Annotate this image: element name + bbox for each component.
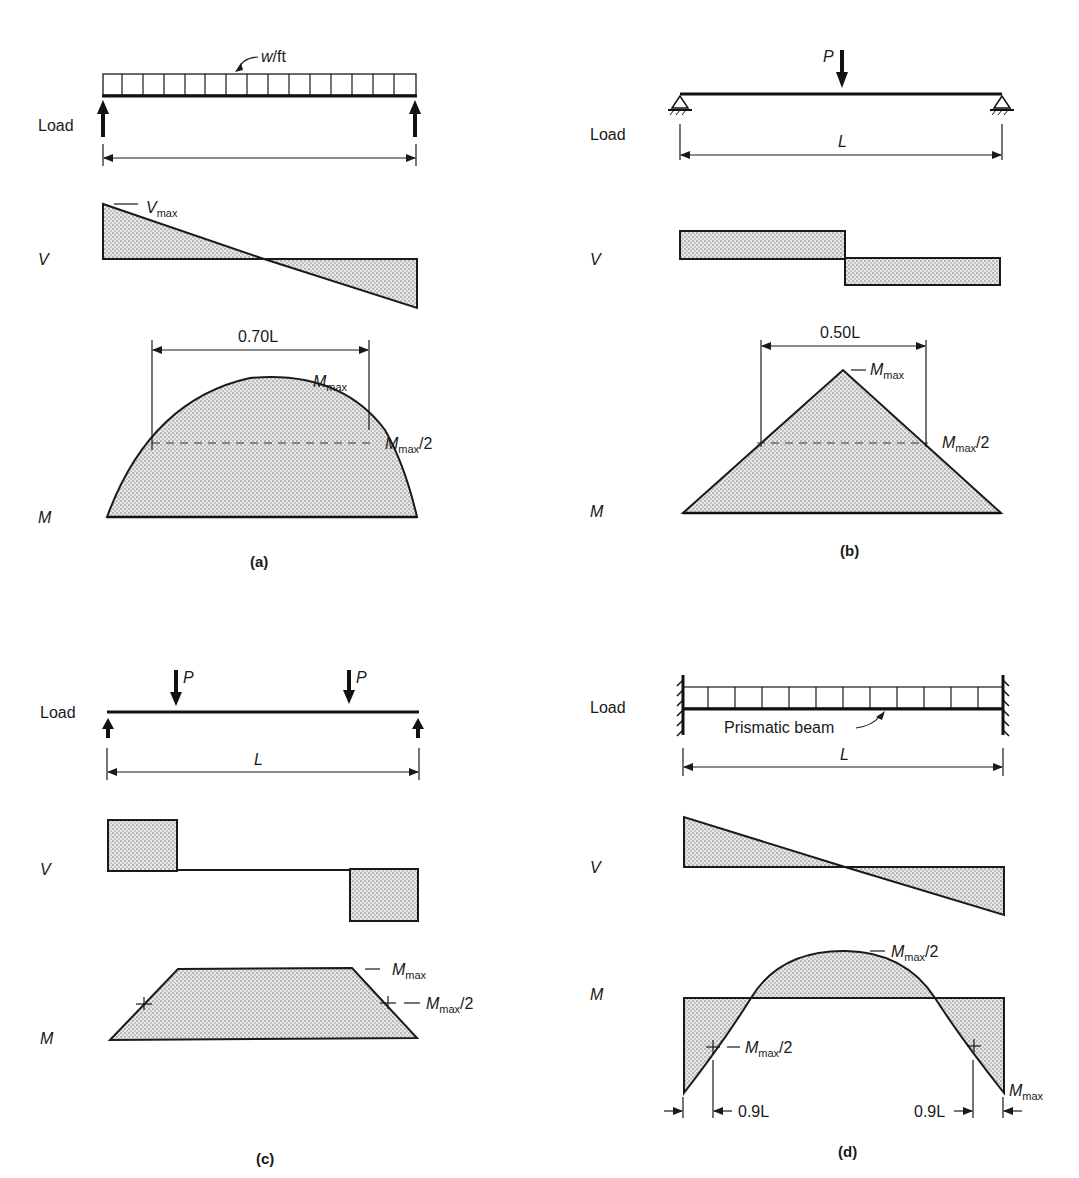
m-max-label: Mmax — [392, 961, 427, 981]
row-label-moment: M — [40, 1030, 54, 1047]
m-span-label: 0.50L — [820, 324, 860, 341]
panel-d-moment-diagram: M Mmax/2 Mmax/2 Mmax 0.9L — [590, 943, 1044, 1120]
panel-caption: (b) — [840, 542, 859, 559]
panel-c-shear-diagram: V — [40, 820, 418, 921]
span-label: L — [838, 133, 847, 150]
panel-a-load-diagram: Load w/ft — [38, 48, 421, 166]
left-dim-label: 0.9L — [738, 1103, 769, 1120]
point-load-label: P — [183, 669, 194, 686]
pin-support-icon — [668, 96, 692, 115]
right-dim-label: 0.9L — [914, 1103, 945, 1120]
span-label: L — [254, 751, 263, 768]
m-max-label: Mmax — [870, 361, 905, 381]
fixed-support-icon — [677, 675, 683, 736]
panel-caption: (c) — [256, 1150, 274, 1167]
panel-d-load-diagram: Load Prismat — [590, 675, 1009, 776]
m-max-end-label: Mmax — [1009, 1082, 1044, 1102]
row-label-load: Load — [40, 704, 76, 721]
row-label-moment: M — [38, 509, 52, 526]
row-label-shear: V — [38, 251, 50, 268]
reaction-arrow-icon — [97, 100, 109, 137]
point-load-arrow-icon — [170, 670, 182, 706]
panel-b-load-diagram: Load P L — [590, 48, 1014, 160]
beam-diagrams-figure: Load w/ft — [0, 0, 1079, 1178]
panel-a-moment-diagram: M 0.70L Mmax Mmax/2 — [38, 328, 433, 526]
pin-support-icon — [990, 96, 1014, 115]
panel-d: Load Prismat — [590, 675, 1044, 1160]
row-label-shear: V — [590, 859, 602, 876]
row-label-shear: V — [590, 251, 602, 268]
row-label-shear: V — [40, 861, 52, 878]
reaction-arrow-icon — [412, 718, 424, 738]
panel-a: Load w/ft — [38, 48, 433, 570]
panel-d-shear-diagram: V — [590, 817, 1004, 915]
panel-c-moment-diagram: M Mmax Mmax/2 — [40, 961, 474, 1047]
point-load-label: P — [823, 48, 834, 65]
panel-b-shear-diagram: V — [590, 231, 1000, 285]
reaction-arrow-icon — [102, 718, 114, 738]
panel-caption: (d) — [838, 1143, 857, 1160]
panel-b: Load P L V — [590, 48, 1014, 559]
row-label-load: Load — [38, 117, 74, 134]
panel-a-shear-diagram: V Vmax — [38, 199, 417, 308]
m-max-half-peak-label: Mmax/2 — [891, 943, 939, 963]
m-half-label: Mmax/2 — [426, 995, 474, 1015]
row-label-load: Load — [590, 126, 626, 143]
point-load-label: P — [356, 669, 367, 686]
m-span-label: 0.70L — [238, 328, 278, 345]
row-label-load: Load — [590, 699, 626, 716]
panel-c-load-diagram: Load P P L — [40, 669, 424, 780]
panel-caption: (a) — [250, 553, 268, 570]
leader-arrow-icon — [856, 716, 880, 728]
reaction-arrow-icon — [409, 100, 421, 137]
panel-b-moment-diagram: M 0.50L Mmax Mmax/2 — [590, 324, 1001, 520]
point-load-arrow-icon — [836, 50, 848, 88]
row-label-moment: M — [590, 503, 604, 520]
m-half-label: Mmax/2 — [942, 434, 990, 454]
v-max-label: Vmax — [146, 199, 178, 219]
fixed-support-icon — [1003, 675, 1009, 736]
row-label-moment: M — [590, 986, 604, 1003]
point-load-arrow-icon — [343, 670, 355, 704]
load-annotation: w/ft — [261, 48, 286, 65]
span-label: L — [840, 746, 849, 763]
m-max-half-inner-label: Mmax/2 — [745, 1039, 793, 1059]
panel-c: Load P P L — [40, 669, 474, 1167]
beam-annotation: Prismatic beam — [724, 719, 834, 736]
